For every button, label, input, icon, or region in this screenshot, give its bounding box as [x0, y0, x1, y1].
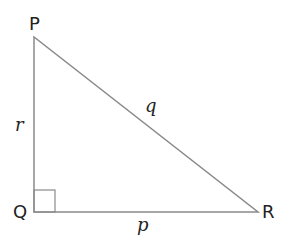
right-angle-marker — [34, 190, 55, 212]
vertex-label-p: P — [29, 15, 40, 33]
triangle-figure — [0, 0, 286, 246]
side-label-p: p — [137, 216, 149, 234]
triangle-diagram: P Q R r q p — [0, 0, 286, 246]
triangle-pqr — [34, 37, 258, 212]
side-label-r: r — [15, 116, 24, 134]
vertex-label-q: Q — [13, 203, 27, 221]
side-label-q: q — [145, 97, 157, 115]
vertex-label-r: R — [262, 203, 275, 221]
